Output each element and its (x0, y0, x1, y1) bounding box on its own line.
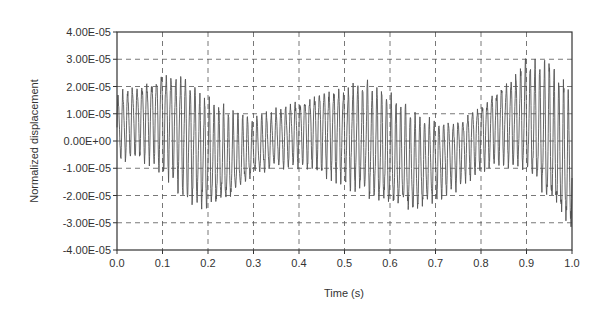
y-tick-label: -2.00E-05 (63, 190, 111, 202)
y-tick-label: 4.00E-05 (66, 26, 111, 38)
x-axis-ticks: 0.00.10.20.30.40.50.60.70.80.91.0 (109, 250, 579, 269)
x-tick-label: 0.6 (382, 257, 397, 269)
y-tick-label: 1.00E-05 (66, 108, 111, 120)
x-tick-label: 0.9 (519, 257, 534, 269)
x-tick-label: 0.5 (337, 257, 352, 269)
y-tick-label: 2.00E-05 (66, 81, 111, 93)
y-tick-label: 3.00E-05 (66, 53, 111, 65)
x-tick-label: 0.1 (155, 257, 170, 269)
x-axis-label: Time (s) (324, 287, 364, 299)
x-tick-label: 0.0 (109, 257, 124, 269)
x-tick-label: 0.3 (246, 257, 261, 269)
signal-trace (117, 59, 572, 227)
y-axis-ticks: 4.00E-053.00E-052.00E-051.00E-050.00E+00… (63, 26, 117, 256)
x-tick-label: 0.8 (473, 257, 488, 269)
displacement-chart: 4.00E-053.00E-052.00E-051.00E-050.00E+00… (0, 0, 608, 314)
x-tick-label: 0.4 (291, 257, 306, 269)
x-tick-label: 0.2 (200, 257, 215, 269)
y-tick-label: -1.00E-05 (63, 162, 111, 174)
y-tick-label: -4.00E-05 (63, 244, 111, 256)
displacement-line (117, 59, 572, 227)
y-tick-label: -3.00E-05 (63, 217, 111, 229)
y-tick-label: 0.00E+00 (64, 135, 111, 147)
x-tick-label: 1.0 (564, 257, 579, 269)
y-axis-label: Normalized displacement (28, 79, 40, 203)
x-tick-label: 0.7 (428, 257, 443, 269)
